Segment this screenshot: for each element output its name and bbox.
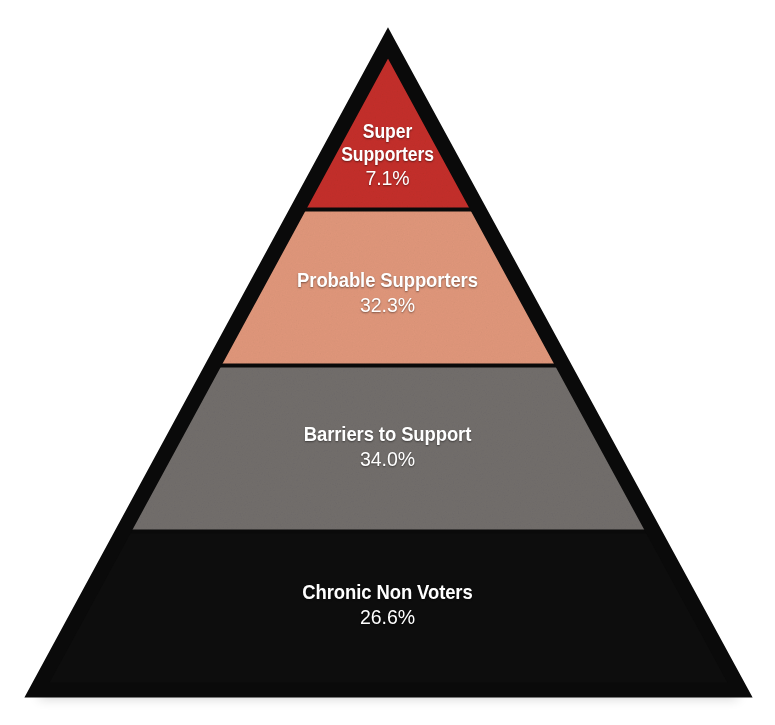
pyramid-graphic [0, 0, 775, 725]
tier-band-barriers-to-support [0, 366, 775, 532]
pyramid-chart: Super Supporters 7.1% Probable Supporter… [0, 0, 775, 725]
tier-band-probable-supporters [0, 210, 775, 366]
